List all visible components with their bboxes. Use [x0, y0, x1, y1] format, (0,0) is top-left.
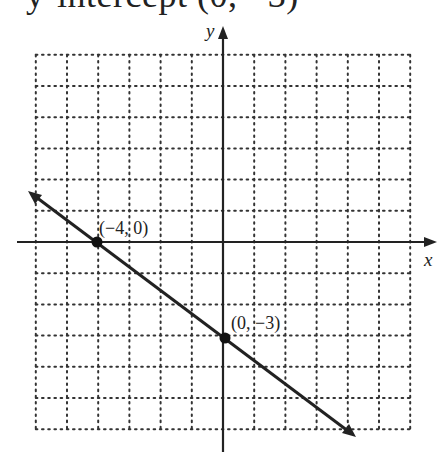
x-axis-arrow-icon — [424, 237, 437, 247]
x-axis-label: x — [424, 249, 432, 271]
y-axis-label: y — [206, 20, 214, 42]
line-end-arrow-icon — [342, 424, 356, 437]
coordinate-plane — [0, 0, 439, 452]
point-label-0-neg3: (0, −3) — [231, 313, 280, 334]
y-axis-arrow-icon — [218, 26, 228, 39]
point-label-neg4-0: (−4, 0) — [99, 218, 148, 239]
point-0-neg3 — [220, 333, 231, 344]
